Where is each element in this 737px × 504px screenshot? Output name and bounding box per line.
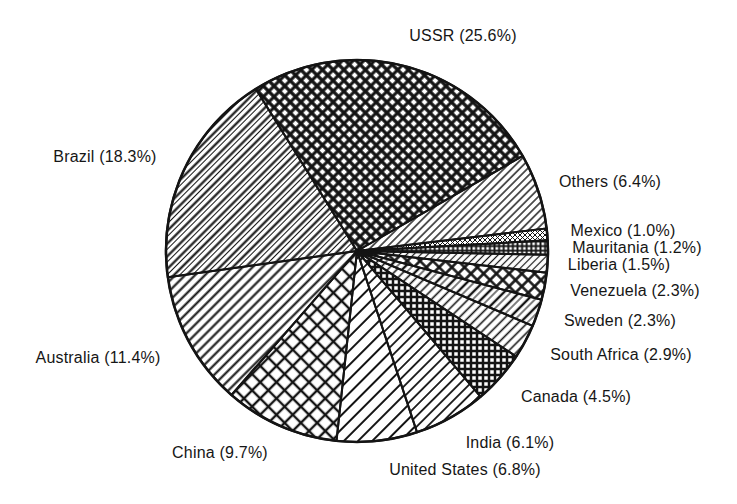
pie-chart-figure: USSR (25.6%)Others (6.4%)Mexico (1.0%)Ma… [0, 0, 737, 504]
pie-wedges [166, 60, 548, 442]
pie-chart [0, 0, 737, 504]
